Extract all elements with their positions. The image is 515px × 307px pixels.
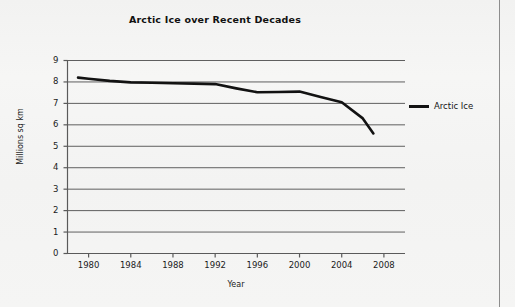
y-tick-label: 3 (43, 185, 59, 194)
x-tick-label: 2004 (320, 261, 364, 270)
y-tick-label: 5 (43, 142, 59, 151)
x-tick-label: 2000 (278, 261, 322, 270)
y-axis-title: Millions sq km (16, 87, 25, 187)
y-tick-label: 6 (43, 120, 59, 129)
x-tick-label: 1980 (67, 261, 111, 270)
x-axis-title: Year (67, 280, 405, 289)
y-tick-label: 7 (43, 99, 59, 108)
gridlines-group (68, 61, 406, 233)
x-tick-label: 1996 (235, 261, 279, 270)
y-tick-label: 0 (43, 249, 59, 258)
x-tick-label: 1992 (193, 261, 237, 270)
y-tick-label: 8 (43, 77, 59, 86)
x-tick-label: 2008 (362, 261, 406, 270)
x-tick-label: 1988 (151, 261, 195, 270)
y-tick-label: 1 (43, 228, 59, 237)
x-tick-label: 1984 (109, 261, 153, 270)
legend-label-arctic-ice: Arctic Ice (434, 101, 473, 111)
x-tick-marks-group (89, 254, 384, 258)
legend-line-swatch-arctic-ice (409, 105, 429, 108)
y-tick-label: 4 (43, 163, 59, 172)
chart-plot-area: Millions sq km Year 0123456789 198019841… (0, 0, 515, 307)
chart-legend: Arctic Ice (409, 101, 473, 111)
y-tick-label: 9 (43, 56, 59, 65)
y-tick-label: 2 (43, 206, 59, 215)
